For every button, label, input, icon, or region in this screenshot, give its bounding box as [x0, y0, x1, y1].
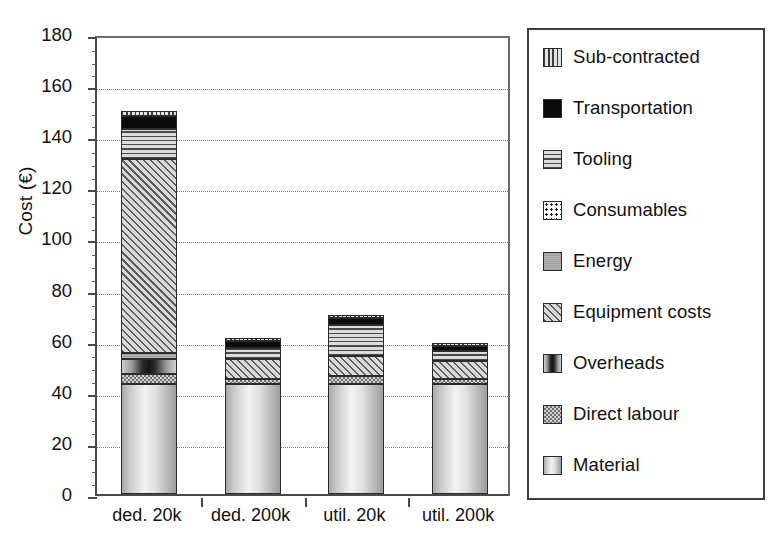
legend-item-consumables[interactable]: Consumables — [543, 199, 687, 221]
gridline — [97, 89, 508, 90]
fine-checker-swatch — [543, 405, 562, 424]
legend-label: Equipment costs — [573, 301, 711, 323]
legend-item-energy[interactable]: Energy — [543, 250, 632, 272]
y-axis-label: 80 — [18, 280, 72, 302]
segment-direct-labour — [225, 379, 281, 384]
legend-item-overheads[interactable]: Overheads — [543, 352, 664, 374]
y-tick-minor — [92, 217, 97, 218]
legend-label: Consumables — [573, 199, 687, 221]
vertical-lines-swatch — [543, 48, 562, 67]
y-tick-minor — [92, 485, 97, 486]
legend-item-sub-contracted[interactable]: Sub-contracted — [543, 46, 700, 68]
y-tick-minor — [92, 357, 97, 358]
y-tick-major — [88, 446, 97, 448]
y-axis-label: 140 — [18, 126, 72, 148]
segment-transportation — [225, 341, 281, 349]
y-tick-minor — [92, 306, 97, 307]
y-axis-label: 180 — [18, 24, 72, 46]
diagonal-hatch-swatch — [543, 303, 562, 322]
y-tick-minor — [92, 472, 97, 473]
y-tick-minor — [92, 383, 97, 384]
segment-direct-labour — [121, 374, 177, 384]
y-axis-label: 60 — [18, 331, 72, 353]
y-axis-label: 160 — [18, 75, 72, 97]
segment-material — [328, 384, 384, 494]
segment-sub-contracted — [432, 343, 488, 346]
segment-direct-labour — [432, 379, 488, 384]
y-tick-minor — [92, 255, 97, 256]
segment-material — [121, 384, 177, 494]
y-tick-minor — [92, 64, 97, 65]
y-tick-minor — [92, 230, 97, 231]
segment-direct-labour — [328, 376, 384, 384]
stacked-bar-chart: Cost (€) 020406080100120140160180 ded. 2… — [0, 0, 784, 540]
legend-label: Tooling — [573, 148, 632, 170]
y-tick-major — [88, 190, 97, 192]
segment-material — [432, 384, 488, 494]
legend-label: Transportation — [573, 97, 693, 119]
y-tick-minor — [92, 166, 97, 167]
y-tick-minor — [92, 319, 97, 320]
legend-label: Energy — [573, 250, 632, 272]
segment-equipment-costs — [328, 356, 384, 376]
segment-transportation — [328, 318, 384, 326]
y-tick-minor — [92, 421, 97, 422]
legend-item-equipment-costs[interactable]: Equipment costs — [543, 301, 711, 323]
horizontal-lines-swatch — [543, 150, 562, 169]
y-tick-major — [88, 344, 97, 346]
y-tick-minor — [92, 115, 97, 116]
segment-equipment-costs — [121, 159, 177, 353]
bar-ded-20k[interactable] — [121, 111, 177, 494]
y-tick-minor — [92, 332, 97, 333]
y-tick-minor — [92, 281, 97, 282]
y-tick-minor — [92, 51, 97, 52]
segment-transportation — [432, 346, 488, 351]
y-tick-minor — [92, 179, 97, 180]
legend-label: Overheads — [573, 352, 664, 374]
y-axis-label: 120 — [18, 177, 72, 199]
y-tick-major — [88, 395, 97, 397]
segment-sub-contracted — [121, 111, 177, 116]
bar-ded-200k[interactable] — [225, 338, 281, 494]
legend-label: Material — [573, 454, 640, 476]
y-axis-label: 40 — [18, 382, 72, 404]
segment-equipment-costs — [225, 359, 281, 379]
segment-material — [225, 384, 281, 494]
segment-tooling — [432, 351, 488, 361]
y-tick-major — [88, 139, 97, 141]
legend: Sub-contractedTransportationToolingConsu… — [527, 28, 765, 500]
dotted-white-swatch — [543, 201, 562, 220]
y-tick-minor — [92, 409, 97, 410]
y-tick-minor — [92, 460, 97, 461]
legend-item-direct-labour[interactable]: Direct labour — [543, 403, 679, 425]
legend-label: Sub-contracted — [573, 46, 700, 68]
segment-sub-contracted — [328, 315, 384, 318]
y-tick-major — [88, 241, 97, 243]
y-tick-minor — [92, 76, 97, 77]
y-tick-minor — [92, 102, 97, 103]
vertical-bands-swatch — [543, 354, 562, 373]
segment-sub-contracted — [225, 338, 281, 341]
y-tick-major — [88, 497, 97, 499]
y-tick-major — [88, 293, 97, 295]
light-gradient-swatch — [543, 456, 562, 475]
y-tick-minor — [92, 153, 97, 154]
solid-black-swatch — [543, 99, 562, 118]
y-tick-minor — [92, 370, 97, 371]
segment-equipment-costs — [432, 361, 488, 379]
legend-item-transportation[interactable]: Transportation — [543, 97, 693, 119]
y-tick-minor — [92, 434, 97, 435]
bar-util-20k[interactable] — [328, 315, 384, 494]
legend-item-tooling[interactable]: Tooling — [543, 148, 632, 170]
y-tick-minor — [92, 268, 97, 269]
legend-item-material[interactable]: Material — [543, 454, 640, 476]
segment-tooling — [328, 325, 384, 356]
segment-transportation — [121, 116, 177, 129]
bar-util-200k[interactable] — [432, 343, 488, 494]
y-tick-major — [88, 88, 97, 90]
segment-tooling — [121, 129, 177, 160]
y-tick-minor — [92, 204, 97, 205]
y-axis-label: 100 — [18, 228, 72, 250]
solid-grey-swatch — [543, 252, 562, 271]
y-axis-label: 20 — [18, 433, 72, 455]
